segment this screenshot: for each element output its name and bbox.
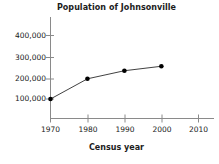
y-tick-label-400000: 400,000 (2, 32, 46, 40)
data-point-1980 (85, 77, 90, 82)
x-tick-label-1980: 1980 (70, 126, 106, 134)
x-tick-label-2010: 2010 (181, 126, 217, 134)
y-tick-label-300000: 300,000 (2, 54, 46, 62)
data-point-1990 (122, 68, 127, 73)
data-point-2000 (159, 64, 164, 69)
x-axis-title: Census year (0, 143, 219, 152)
data-series-line (51, 66, 162, 99)
y-tick-label-100000: 100,000 (2, 95, 46, 103)
data-point-1970 (48, 97, 53, 102)
population-line-chart: Population of Johnsonville (0, 0, 219, 164)
y-tick-label-200000: 200,000 (2, 75, 46, 83)
data-series-markers (48, 64, 163, 101)
x-tick-label-1990: 1990 (107, 126, 143, 134)
x-tick-label-2000: 2000 (144, 126, 180, 134)
x-tick-label-1970: 1970 (33, 126, 69, 134)
